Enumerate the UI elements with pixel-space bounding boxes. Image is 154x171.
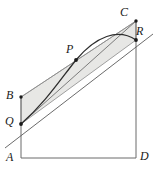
point-p-marker	[74, 58, 78, 62]
label-d: D	[140, 150, 149, 162]
label-q: Q	[5, 115, 14, 127]
point-b-marker	[19, 95, 22, 98]
geometry-figure: A B C D P Q R	[0, 0, 154, 171]
chord-qc	[21, 21, 136, 124]
point-q-marker	[19, 122, 23, 126]
label-a: A	[6, 151, 13, 163]
segment-bc	[21, 21, 136, 97]
point-r-marker	[134, 38, 138, 42]
label-b: B	[6, 89, 13, 101]
tangent-line-at-p	[5, 34, 153, 148]
point-c-marker	[134, 19, 137, 22]
figure-canvas	[0, 0, 154, 171]
label-r: R	[136, 25, 143, 37]
label-p: P	[66, 43, 73, 55]
label-c: C	[120, 6, 128, 18]
